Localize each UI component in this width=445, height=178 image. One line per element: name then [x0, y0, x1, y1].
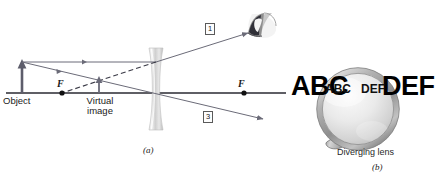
focal-point-left: [59, 90, 64, 95]
focal-point-right-label: F: [238, 79, 245, 90]
optics-figure: Object Virtual image F F 1 3 (a) ABC DEF…: [0, 0, 445, 178]
virtual-image-label: Virtual image: [77, 96, 123, 116]
object-label: Object: [3, 96, 30, 106]
diverging-lens-caption: Diverging lens: [337, 148, 394, 157]
focal-point-left-label: F: [57, 79, 64, 90]
ray-1-refracted: [156, 33, 248, 62]
ray-1-incident: [22, 60, 156, 65]
ray-3-tag: 3: [203, 111, 213, 123]
virtual-image-arrow: [96, 76, 103, 93]
magnified-text-right: DEF: [361, 82, 385, 96]
panel-a-caption: (a): [143, 146, 154, 155]
panel-b-caption: (b): [372, 163, 383, 172]
background-text-right: DEF: [382, 71, 435, 102]
object-arrow: [18, 59, 27, 93]
eye-icon: [248, 13, 276, 38]
focal-point-right: [241, 90, 246, 95]
virtual-image-label-line2: image: [77, 106, 123, 116]
magnified-text-left: ABC: [325, 82, 351, 96]
ray-3: [22, 62, 263, 119]
virtual-ray-dashed: [62, 62, 156, 93]
ray-1-tag: 1: [205, 23, 215, 35]
